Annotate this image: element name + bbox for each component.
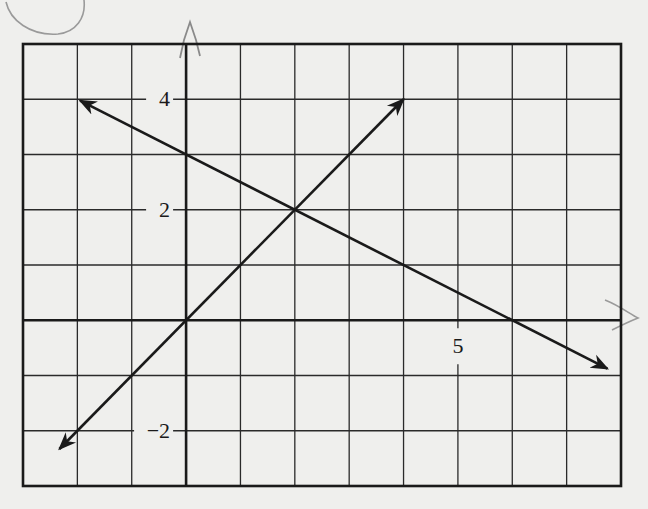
- pencil-circle-arc: [6, 0, 84, 34]
- coordinate-grid-chart: 542−2: [0, 0, 648, 509]
- plotted-lines: [59, 99, 607, 449]
- grid-lines: [23, 44, 621, 486]
- line-decreasing: [80, 101, 607, 369]
- y-tick-label: 4: [159, 86, 170, 111]
- y-tick-label: 2: [159, 197, 170, 222]
- pencil-annotations: [6, 0, 638, 330]
- graph-figure: 542−2: [0, 0, 648, 509]
- pencil-y-axis-arrow: [180, 22, 200, 58]
- line-increasing: [59, 99, 403, 449]
- y-tick-label: −2: [147, 418, 170, 443]
- x-tick-label: 5: [452, 333, 463, 358]
